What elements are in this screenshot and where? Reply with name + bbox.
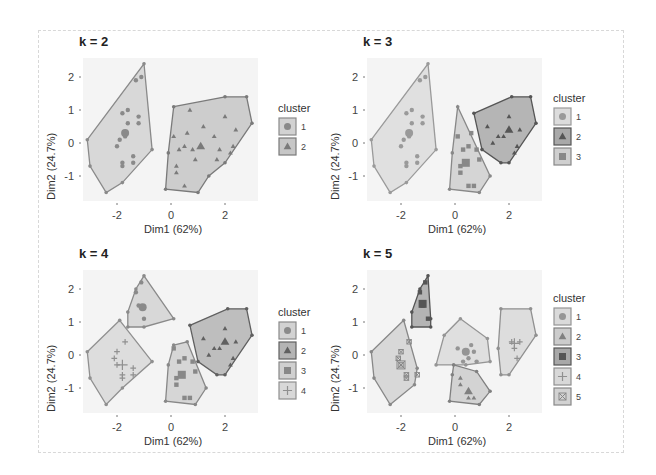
x-tick-label: 2 (506, 209, 512, 221)
data-point (477, 157, 481, 161)
data-point (456, 346, 460, 350)
y-tick-label: -1 (64, 170, 74, 182)
data-point (458, 171, 462, 175)
scatter-plot: 210-1-20212 (38, 30, 331, 241)
cluster-panel-2: k = 3210-1-202123Dim1 (62%)Dim2 (24.7%)c… (322, 30, 615, 241)
cluster-centroid (419, 300, 427, 308)
data-point (402, 138, 406, 142)
y-tick-label: 2 (352, 71, 358, 83)
data-point (115, 144, 119, 148)
legend-symbol (559, 113, 566, 120)
cluster-centroid (462, 159, 470, 167)
data-point (418, 78, 422, 82)
cluster-centroid (139, 303, 147, 311)
y-tick-label: -1 (64, 382, 74, 394)
data-point (193, 369, 197, 373)
data-point (410, 121, 414, 125)
data-point (182, 356, 186, 360)
data-point (404, 111, 408, 115)
x-tick-label: 0 (168, 209, 174, 221)
legend-title: cluster (278, 102, 310, 114)
legend-symbol (284, 327, 291, 334)
data-point (472, 350, 476, 354)
legend-symbol (559, 313, 566, 320)
legend-label: 3 (301, 366, 306, 376)
x-tick-label: -2 (112, 209, 122, 221)
data-point (461, 147, 465, 151)
legend-label: 2 (301, 142, 306, 152)
x-axis-label: Dim1 (62%) (144, 223, 202, 235)
y-tick-label: 1 (352, 316, 358, 328)
legend-label: 1 (301, 122, 306, 132)
legend-label: 3 (576, 152, 581, 162)
y-tick-label: 2 (68, 283, 74, 295)
legend-symbol (284, 367, 291, 374)
y-axis-label: Dim2 (24.7%) (329, 345, 341, 412)
data-point (415, 154, 419, 158)
scatter-plot: 210-1-2021234 (38, 242, 331, 453)
cluster-panel-1: k = 2210-1-20212Dim1 (62%)Dim2 (24.7%)cl… (38, 30, 331, 241)
data-point (126, 121, 130, 125)
data-point (134, 290, 138, 294)
data-point (461, 359, 465, 363)
data-point (139, 75, 143, 79)
x-tick-label: 0 (168, 421, 174, 433)
data-point (418, 290, 422, 294)
legend-label: 2 (301, 346, 306, 356)
legend-title: cluster (553, 92, 585, 104)
y-tick-label: -1 (348, 170, 358, 182)
data-point (131, 154, 135, 158)
legend-label: 3 (576, 352, 581, 362)
data-point (134, 78, 138, 82)
y-tick-label: 0 (352, 137, 358, 149)
y-tick-label: 1 (68, 316, 74, 328)
data-point (190, 359, 194, 363)
data-point (136, 114, 140, 118)
legend: 123 (554, 108, 581, 165)
cluster-panel-3: k = 4210-1-2021234Dim1 (62%)Dim2 (24.7%)… (38, 242, 331, 453)
x-tick-label: 2 (222, 209, 228, 221)
data-point (131, 161, 135, 165)
data-point (466, 356, 470, 360)
legend-symbol (559, 353, 566, 360)
legend-label: 1 (576, 112, 581, 122)
x-axis-label: Dim1 (62%) (428, 435, 486, 447)
data-point (136, 121, 140, 125)
x-tick-label: 2 (222, 421, 228, 433)
cluster-panel-4: k = 5210-1-20212345Dim1 (62%)Dim2 (24.7%… (322, 242, 615, 453)
y-tick-label: 0 (68, 349, 74, 361)
data-point (174, 383, 178, 387)
data-point (420, 114, 424, 118)
data-point (404, 164, 408, 168)
data-point (423, 75, 427, 79)
scatter-plot: 210-1-20212345 (322, 242, 615, 453)
data-point (415, 161, 419, 165)
y-tick-label: 0 (68, 137, 74, 149)
y-axis-label: Dim2 (24.7%) (45, 133, 57, 200)
y-tick-label: 0 (352, 349, 358, 361)
data-point (466, 184, 470, 188)
cluster-centroid (462, 348, 470, 356)
legend: 1234 (279, 322, 306, 399)
data-point (456, 134, 460, 138)
legend-title: cluster (553, 292, 585, 304)
legend: 12 (279, 118, 306, 155)
cluster-centroid (405, 129, 413, 137)
x-tick-label: -2 (396, 421, 406, 433)
data-point (466, 144, 470, 148)
x-tick-label: -2 (112, 421, 122, 433)
data-point (410, 108, 414, 112)
legend-label: 2 (576, 132, 581, 142)
data-point (188, 396, 192, 400)
data-point (139, 280, 143, 284)
legend-label: 4 (576, 372, 581, 382)
y-tick-label: 2 (68, 71, 74, 83)
data-point (426, 317, 430, 321)
data-point (177, 359, 181, 363)
data-point (423, 280, 427, 284)
data-point (120, 111, 124, 115)
data-point (469, 343, 473, 347)
legend-label: 4 (301, 386, 306, 396)
data-point (469, 131, 473, 135)
y-tick-label: 2 (352, 283, 358, 295)
